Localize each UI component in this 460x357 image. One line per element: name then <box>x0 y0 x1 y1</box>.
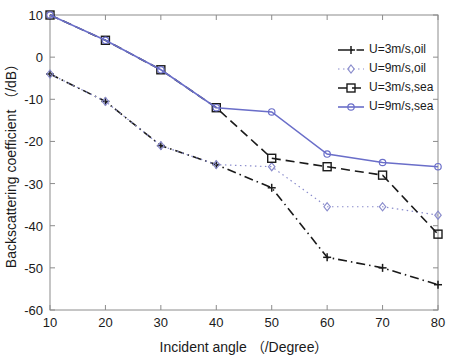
legend-label-3: U=9m/s,sea <box>369 99 434 113</box>
x-axis-title: Incident angle （/Degree） <box>160 339 329 355</box>
y-tick-label--10: -10 <box>24 92 43 107</box>
y-tick-label-0: 0 <box>36 50 43 65</box>
y-tick-label--30: -30 <box>24 177 43 192</box>
legend-label-2: U=3m/s,sea <box>369 80 434 94</box>
x-tick-label-30: 30 <box>154 315 168 330</box>
y-tick-label-10: 10 <box>29 8 43 23</box>
x-tick-label-70: 70 <box>375 315 389 330</box>
legend-label-1: U=9m/s,oil <box>369 61 426 75</box>
chart-figure: 1020304050607080100-10-20-30-40-50-60Inc… <box>0 0 460 357</box>
x-tick-label-20: 20 <box>98 315 112 330</box>
x-tick-label-10: 10 <box>43 315 57 330</box>
x-tick-label-60: 60 <box>320 315 334 330</box>
y-tick-label--40: -40 <box>24 219 43 234</box>
chart-plot-area: 1020304050607080100-10-20-30-40-50-60Inc… <box>0 0 460 357</box>
y-tick-label--20: -20 <box>24 134 43 149</box>
x-tick-label-50: 50 <box>264 315 278 330</box>
y-tick-label--50: -50 <box>24 261 43 276</box>
y-tick-label--60: -60 <box>24 303 43 318</box>
legend-label-0: U=3m/s,oil <box>369 42 426 56</box>
x-tick-label-40: 40 <box>209 315 223 330</box>
x-tick-label-80: 80 <box>431 315 445 330</box>
y-axis-title: Backscattering coefficient （/dB） <box>3 57 19 268</box>
